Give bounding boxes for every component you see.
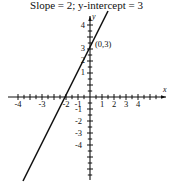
x-tick-label--3: -3 [35, 100, 49, 109]
x-axis-arrowhead [161, 95, 166, 99]
y-tick-label-3: 3 [71, 44, 85, 53]
x-tick-label-4: 4 [131, 100, 145, 109]
y-tick-label-2: 2 [71, 56, 85, 65]
y-axis-label: y [92, 13, 96, 21]
y-tick-label--2: -2 [68, 117, 82, 126]
x-tick-label--4: -4 [11, 100, 25, 109]
x-axis-label: x [163, 86, 167, 94]
figure-container: Slope = 2; y-intercept = 3 [0, 0, 173, 185]
y-tick-label--1: -1 [68, 105, 82, 114]
y-tick-label-1: 1 [71, 68, 85, 77]
y-tick-label-4: 4 [71, 21, 85, 30]
point-annotation-0-3: (0,3) [95, 40, 111, 49]
y-tick-label--4: -4 [68, 141, 82, 150]
y-tick-label--3: -3 [68, 129, 82, 138]
coordinate-plane-graph [0, 0, 173, 185]
